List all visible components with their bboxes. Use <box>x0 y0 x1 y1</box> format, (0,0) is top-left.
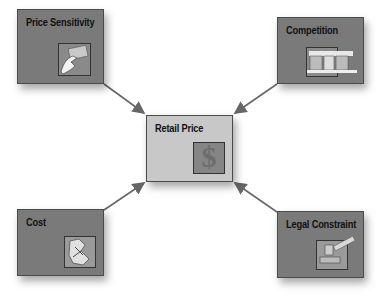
factor-box-price-sensitivity: Price Sensitivity <box>17 9 104 84</box>
factor-label: Competition <box>286 24 338 36</box>
center-box-retail-price: Retail Price $ <box>146 115 233 182</box>
center-label: Retail Price <box>155 122 203 134</box>
gavel-icon <box>316 240 348 270</box>
factor-box-legal-constraint: Legal Constraint <box>277 211 364 278</box>
factor-label: Cost <box>26 216 46 228</box>
dollar-sign-icon: $ <box>193 142 225 174</box>
worker-illustration-icon <box>64 236 96 268</box>
arrow-price-sensitivity <box>104 84 144 113</box>
factor-box-competition: Competition <box>277 17 364 84</box>
factor-label: Price Sensitivity <box>26 16 94 28</box>
factor-label: Legal Constraint <box>286 218 356 230</box>
arrow-competition <box>235 84 277 113</box>
arrow-cost <box>104 183 144 210</box>
hand-with-credit-card-icon <box>58 43 91 76</box>
factor-box-cost: Cost <box>17 209 104 276</box>
arrow-legal-constraint <box>235 183 277 212</box>
storefront-icon <box>306 47 338 77</box>
